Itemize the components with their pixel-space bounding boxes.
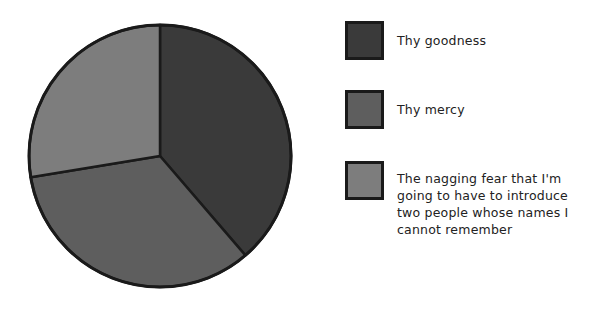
legend-item-goodness: Thy goodness bbox=[345, 21, 577, 60]
legend-label-goodness: Thy goodness bbox=[397, 32, 577, 49]
legend-item-nagging-fear: The nagging fear that I'm going to have … bbox=[345, 161, 577, 238]
legend-swatch-goodness bbox=[345, 21, 384, 60]
legend-swatch-nagging-fear bbox=[345, 161, 384, 200]
pie-chart-graphic bbox=[0, 0, 320, 309]
pie-slice-nagging-fear bbox=[29, 25, 160, 177]
legend-swatch-mercy bbox=[345, 90, 384, 129]
pie-chart bbox=[0, 0, 320, 309]
legend-label-nagging-fear: The nagging fear that I'm going to have … bbox=[397, 170, 577, 238]
legend-label-mercy: Thy mercy bbox=[397, 101, 577, 118]
legend-item-mercy: Thy mercy bbox=[345, 90, 577, 129]
